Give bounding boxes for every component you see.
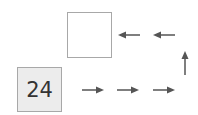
arrow-right-icon (82, 86, 104, 94)
arrow-left-icon (153, 31, 175, 39)
arrow-up-icon (181, 51, 189, 75)
arrow-right-icon (117, 86, 139, 94)
start-number: 24 (26, 78, 53, 102)
arrow-right-icon (153, 86, 175, 94)
answer-box[interactable] (67, 12, 112, 58)
start-number-box: 24 (17, 67, 62, 112)
arrow-left-icon (118, 31, 140, 39)
